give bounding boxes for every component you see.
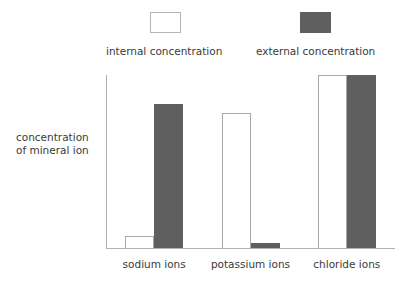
category-label-chloride-ions: chloride ions [299,257,395,271]
category-label-potassium-ions: potassium ions [202,257,298,271]
legend-swatch-external-icon [300,12,331,33]
y-axis-title-line-2: of mineral ion [16,144,102,157]
bar-chloride-ions-internal-concentration [318,75,347,248]
plot-area [106,75,395,248]
legend-label-internal: internal concentration [106,45,222,58]
y-axis-title: concentration of mineral ion [16,131,102,157]
legend-label-external: external concentration [256,45,375,58]
bar-sodium-ions-internal-concentration [125,236,154,248]
y-axis-title-line-1: concentration [16,131,102,144]
bar-potassium-ions-external-concentration [251,243,280,248]
category-label-sodium-ions: sodium ions [106,257,202,271]
bar-potassium-ions-internal-concentration [222,113,251,248]
x-axis-line [106,248,395,249]
legend-swatch-internal-icon [150,12,181,33]
bar-chart: internal concentration external concentr… [0,0,411,291]
bar-sodium-ions-external-concentration [154,104,183,248]
bar-chloride-ions-external-concentration [347,75,376,248]
